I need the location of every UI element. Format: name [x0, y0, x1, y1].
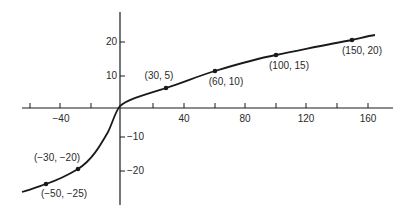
x-tick-label: −40 [53, 114, 70, 124]
y-tick-label: 20 [106, 37, 117, 47]
y-tick-label: −20 [127, 166, 144, 176]
point-100-15 [274, 53, 279, 58]
point-m30-m20 [76, 167, 81, 172]
point-150-20 [350, 38, 355, 43]
point-label: (−50, −25) [41, 189, 87, 199]
point-m50-m25 [44, 182, 49, 187]
point-label: (150, 20) [342, 46, 382, 56]
chart-area: −40 40 80 120 160 20 10 −10 −20 (30, 5) … [0, 0, 409, 213]
x-ticks [30, 103, 368, 108]
y-tick-label: −10 [127, 132, 144, 142]
y-tick-label: 10 [106, 71, 117, 81]
x-tick-label: 120 [298, 114, 315, 124]
x-tick-label: 40 [178, 114, 189, 124]
point-30-5 [164, 86, 169, 91]
point-label: (30, 5) [145, 71, 174, 81]
x-tick-label: 160 [360, 114, 377, 124]
x-tick-label: 80 [239, 114, 250, 124]
point-label: (60, 10) [209, 77, 243, 87]
data-curve [22, 35, 375, 192]
point-60-10 [213, 69, 218, 74]
point-label: (100, 15) [269, 61, 309, 71]
point-label: (−30, −20) [34, 153, 80, 163]
plot-svg [0, 0, 409, 213]
